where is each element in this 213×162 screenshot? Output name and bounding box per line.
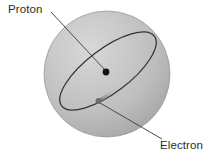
electron-label: Electron [160, 139, 203, 151]
proton-dot [103, 69, 110, 76]
atom-diagram-canvas [0, 0, 213, 162]
proton-label: Proton [8, 3, 42, 15]
atom-figure: Proton Electron [0, 0, 213, 162]
